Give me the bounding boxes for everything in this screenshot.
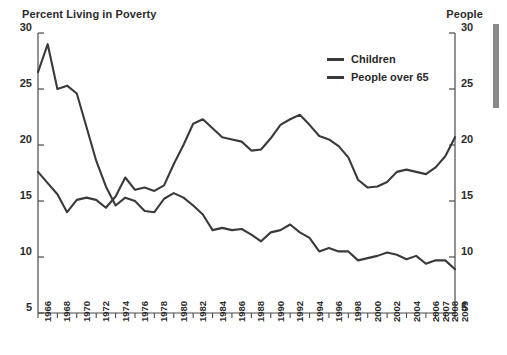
x-axis-tick: 1970	[81, 301, 92, 322]
y-axis-tick-left: 10	[6, 245, 32, 257]
y-axis-tick-left: 25	[6, 77, 32, 89]
y-axis-tick-right: 25	[461, 77, 487, 89]
x-axis-tick: 1986	[236, 301, 247, 322]
x-axis-tick: 1978	[158, 301, 169, 322]
poverty-line-chart: Percent Living in Poverty People Childre…	[0, 0, 507, 355]
series-line-children	[38, 115, 455, 212]
x-axis-tick: 2002	[391, 301, 402, 322]
x-axis-tick: 1984	[217, 301, 228, 322]
y-axis-tick-left: 5	[6, 301, 32, 313]
x-axis-tick: 1990	[275, 301, 286, 322]
y-axis-tick-right: 20	[461, 133, 487, 145]
series-line-people-over-65	[38, 44, 455, 269]
x-axis-tick: 1974	[120, 301, 131, 322]
y-axis-tick-right: 30	[461, 21, 487, 33]
x-axis-tick: 2009	[459, 301, 470, 322]
y-axis-tick-right: 10	[461, 245, 487, 257]
x-axis-tick: 1996	[333, 301, 344, 322]
x-axis-tick: 1988	[255, 301, 266, 322]
x-axis-tick: 1994	[314, 301, 325, 322]
y-axis-tick-right: 15	[461, 189, 487, 201]
x-axis-tick: 1972	[100, 301, 111, 322]
x-axis-tick: 1998	[352, 301, 363, 322]
x-axis-tick: 1966	[42, 301, 53, 322]
x-axis-tick: 1992	[294, 301, 305, 322]
x-axis-tick: 1982	[197, 301, 208, 322]
x-axis-tick: 1968	[61, 301, 72, 322]
x-axis-tick: 2004	[411, 301, 422, 322]
x-axis-tick: 1976	[139, 301, 150, 322]
x-axis-tick: 2000	[372, 301, 383, 322]
x-axis-tick: 1980	[178, 301, 189, 322]
y-axis-tick-left: 15	[6, 189, 32, 201]
y-axis-tick-left: 30	[6, 21, 32, 33]
y-axis-tick-left: 20	[6, 133, 32, 145]
